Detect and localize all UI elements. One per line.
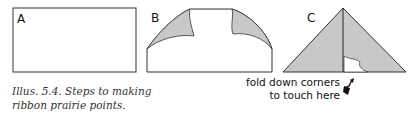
step-a-rectangle: A — [13, 8, 136, 72]
arrow-icon — [343, 78, 354, 95]
step-b-folded-rectangle: B — [147, 9, 272, 72]
step-a-label: A — [17, 12, 26, 26]
caption-line-2: ribbon prairie points. — [12, 98, 151, 112]
step-b-label: B — [151, 11, 159, 25]
step-c-triangle: C — [283, 8, 406, 72]
annotation-line-2: to touch here — [232, 89, 340, 102]
figure-caption: Illus. 5.4. Steps to making ribbon prair… — [12, 84, 151, 112]
step-c-label: C — [307, 11, 315, 25]
annotation-line-1: fold down corners — [232, 76, 340, 89]
caption-line-1: Illus. 5.4. Steps to making — [12, 84, 151, 98]
fold-annotation: fold down corners to touch here — [232, 76, 340, 102]
